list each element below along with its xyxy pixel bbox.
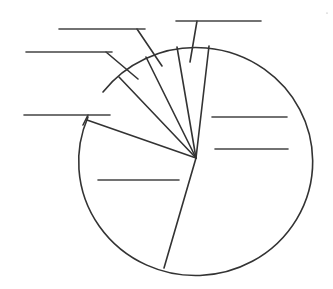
corner-dot [326,12,327,13]
slice-divider [164,158,196,268]
label-leaders [83,21,197,125]
pie-chart-diagram [0,0,333,289]
leader-line [190,21,197,62]
slice-divider [196,46,209,158]
blank-label-lines [24,21,288,180]
